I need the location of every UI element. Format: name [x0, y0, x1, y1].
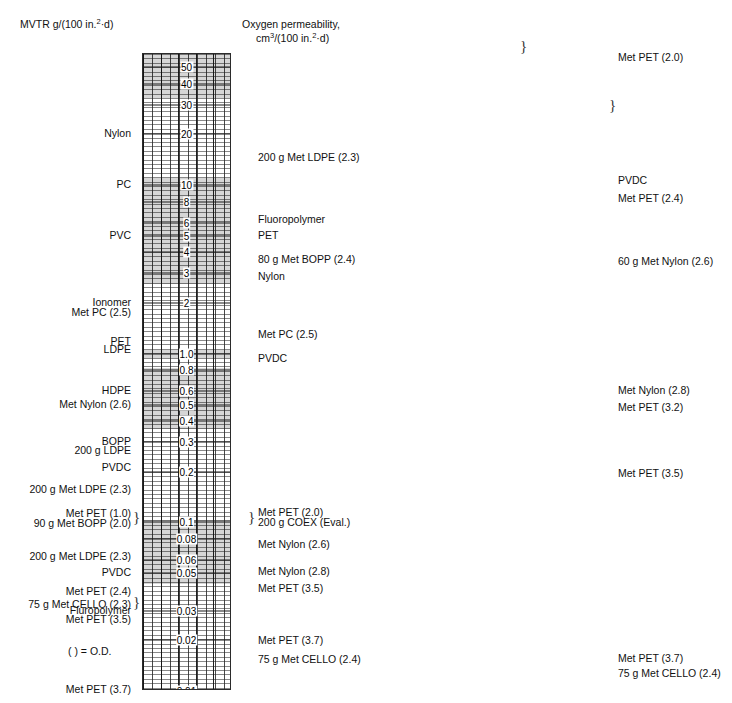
mvtr-material-label: Met PET (3.5) — [66, 613, 131, 625]
od-note: ( ) = O.D. — [68, 645, 111, 657]
grouping-brace: } — [609, 99, 616, 111]
oxygen-material-label: 200 g Met LDPE (2.3) — [258, 151, 360, 163]
tick-label: 0.03 — [176, 605, 197, 616]
tick-label: 0.4 — [179, 415, 195, 426]
mvtr-header-text-left: MVTR g/(100 in. — [20, 18, 96, 30]
mvtr-material-label: Met Nylon (2.6) — [59, 398, 131, 410]
grouping-brace: } — [248, 511, 255, 523]
mvtr-material-label: PVDC — [102, 566, 131, 578]
oxygen-material-label: Met PET (3.5) — [618, 467, 683, 479]
oxygen-material-label: Met PET (3.7) — [618, 652, 683, 664]
mvtr-material-label: Met PC (2.5) — [71, 306, 131, 318]
oxygen-material-label: 75 g Met CELLO (2.4) — [258, 653, 361, 665]
mvtr-header-tail-left: ·d) — [101, 18, 114, 30]
oxygen-material-label: PVDC — [618, 174, 647, 186]
right-chart-panel: MVTR g /(100 in.2 · d) Oxygen permeabili… — [366, 0, 732, 703]
tick-label: 6 — [183, 217, 191, 228]
tick-label: 20 — [180, 129, 193, 140]
oxygen-material-label: Met Nylon (2.8) — [258, 565, 330, 577]
mvtr-material-label: LDPE — [104, 343, 131, 355]
mvtr-material-label: Nylon — [104, 127, 131, 139]
oxygen-material-label: 200 g COEX (Eval.) — [258, 516, 350, 528]
tick-label: 30 — [180, 99, 193, 110]
oxygen-header-mid-left: /(100 in. — [274, 32, 312, 44]
oxygen-material-label: Nylon — [258, 270, 285, 282]
oxygen-material-label: Fluoropolymer — [258, 213, 325, 225]
oxygen-header-tail-left: ·d) — [316, 32, 329, 44]
tick-label: 0.5 — [179, 399, 195, 410]
oxygen-header-line2-left: cm3/(100 in.2·d) — [242, 31, 340, 45]
tick-label: 0.01 — [176, 686, 197, 691]
mvtr-material-label: Met PET (2.4) — [66, 585, 131, 597]
tick-label: 40 — [180, 78, 193, 89]
oxygen-header-line1-left: Oxygen permeability, — [242, 18, 340, 30]
tick-label: 2 — [183, 298, 191, 309]
oxygen-material-label: 75 g Met CELLO (2.4) — [618, 667, 721, 679]
oxygen-material-label: Met Nylon (2.8) — [618, 384, 690, 396]
oxygen-material-label: Met PET (2.4) — [618, 192, 683, 204]
oxygen-material-label: 80 g Met BOPP (2.4) — [258, 253, 355, 265]
mvtr-material-label: 200 g Met LDPE (2.3) — [29, 483, 131, 495]
left-chart-panel: MVTR g/(100 in.2·d) Oxygen permeability,… — [0, 0, 366, 703]
mvtr-material-label: 200 g LDPE — [74, 444, 131, 456]
oxygen-material-label: 60 g Met Nylon (2.6) — [618, 255, 713, 267]
tick-label: 0.2 — [179, 466, 195, 477]
mvtr-material-label: HDPE — [102, 384, 131, 396]
oxygen-material-label: Met Nylon (2.6) — [258, 538, 330, 550]
tick-label: 4 — [183, 247, 191, 258]
tick-label: 0.8 — [179, 365, 195, 376]
tick-label: 0.06 — [176, 554, 197, 565]
tick-label: 0.6 — [179, 386, 195, 397]
grouping-brace: } — [520, 40, 527, 52]
grouping-brace: } — [133, 511, 140, 523]
mvtr-material-label: 200 g Met LDPE (2.3) — [29, 550, 131, 562]
oxygen-axis-header-left: Oxygen permeability, cm3/(100 in.2·d) — [242, 17, 340, 45]
left-log-scale-grid: 50403020108654321.00.80.60.50.40.30.20.1… — [142, 53, 231, 690]
oxygen-material-label: Met PET (2.0) — [618, 51, 683, 63]
oxygen-material-label: PET — [258, 229, 278, 241]
mvtr-material-label: 90 g Met BOPP (2.0) — [34, 517, 131, 529]
tick-label: 0.02 — [176, 635, 197, 646]
oxygen-material-label: Met PET (3.7) — [258, 634, 323, 646]
tick-label: 3 — [183, 268, 191, 279]
tick-label: 0.08 — [176, 533, 197, 544]
mvtr-material-label: PC — [116, 178, 131, 190]
tick-label: 0.05 — [176, 568, 197, 579]
oxygen-material-label: Met PET (3.2) — [618, 401, 683, 413]
tick-label: 0.1 — [179, 517, 195, 528]
oxygen-material-label: Met PET (3.5) — [258, 582, 323, 594]
oxygen-material-label: PVDC — [258, 352, 287, 364]
tick-label: 1.0 — [179, 348, 195, 359]
oxygen-header-cm-left: cm — [256, 32, 270, 44]
tick-label: 0.3 — [179, 436, 195, 447]
mvtr-material-label: PVDC — [102, 461, 131, 473]
tick-label: 8 — [183, 196, 191, 207]
mvtr-material-label: PVC — [109, 229, 131, 241]
oxygen-material-label: Met PC (2.5) — [258, 328, 318, 340]
mvtr-axis-header-left: MVTR g/(100 in.2·d) — [20, 17, 113, 31]
mvtr-material-label: Met PET (3.7) — [66, 683, 131, 695]
tick-label: 10 — [180, 180, 193, 191]
tick-label: 50 — [180, 62, 193, 73]
grouping-brace: } — [133, 596, 140, 608]
tick-label: 5 — [183, 230, 191, 241]
